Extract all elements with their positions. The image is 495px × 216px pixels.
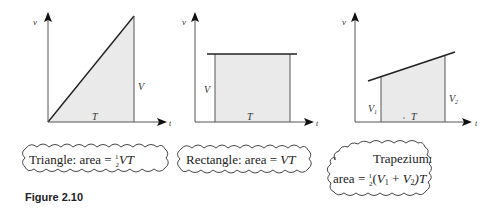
right-height-label: V2 xyxy=(449,93,458,105)
rectangle-caption: Rectangle: area = VT xyxy=(186,152,296,167)
figure-diagram: v t V T v t V T v t V1 V2 T Triangle: ar… xyxy=(0,0,495,216)
x-axis-label: t xyxy=(169,119,172,128)
speck xyxy=(403,117,405,119)
trapezium-graph: v t V1 V2 T xyxy=(342,14,478,128)
triangle-graph: v t V T xyxy=(33,14,172,128)
left-height-label: V1 xyxy=(368,103,377,115)
height-label: V xyxy=(204,84,212,95)
trapezium-caption-title: Trapezium: xyxy=(373,151,432,166)
y-axis-label: v xyxy=(182,17,186,27)
x-axis-label: t xyxy=(475,119,478,128)
triangle-caption-cloud: Triangle: area = 12VT xyxy=(23,144,169,172)
height-label: V xyxy=(138,81,146,92)
cloud-shape xyxy=(327,141,431,196)
trapezium-caption-cloud: Trapezium: area = 12(V1 + V2)T xyxy=(327,141,432,196)
rectangle-graph: v t V T xyxy=(182,14,319,128)
triangle-caption: Triangle: area = 12VT xyxy=(29,152,135,169)
rectangle-caption-cloud: Rectangle: area = VT xyxy=(178,145,312,173)
y-axis-label: v xyxy=(33,17,37,27)
figure-label: Figure 2.10 xyxy=(25,191,83,203)
y-axis-label: v xyxy=(342,17,346,27)
x-axis-label: t xyxy=(316,119,319,128)
